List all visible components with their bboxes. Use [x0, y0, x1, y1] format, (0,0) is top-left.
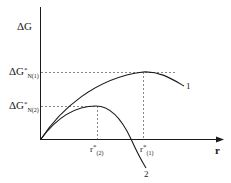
y-mark-dg1-base: ΔG [9, 65, 24, 77]
curve-2 [41, 106, 146, 168]
curve-2-label: 2 [144, 170, 149, 179]
curve-1-label: 1 [186, 82, 191, 91]
x-mark-r2-sub: (2) [97, 150, 104, 156]
x-axis-label: r [215, 145, 220, 156]
y-mark-dg1-sup: * [24, 66, 28, 74]
y-mark-dg2-sub: N(2) [28, 107, 39, 113]
x-axis-arrow-icon [216, 137, 224, 143]
y-axis-label: ΔG [17, 21, 32, 32]
y-mark-dg1-sub: N(1) [28, 73, 39, 79]
x-mark-r1-sup: * [143, 143, 147, 151]
curve-1 [41, 72, 184, 139]
y-mark-dg2: ΔG*N(2) [9, 100, 39, 111]
x-mark-r2: r*(2) [90, 145, 104, 154]
diagram-canvas [0, 0, 231, 183]
x-mark-r1: r*(1) [140, 145, 154, 154]
y-mark-dg1: ΔG*N(1) [9, 66, 39, 77]
x-mark-r2-sup: * [93, 143, 97, 151]
y-mark-dg2-base: ΔG [9, 99, 24, 111]
y-mark-dg2-sup: * [24, 100, 28, 108]
x-mark-r1-sub: (1) [147, 150, 154, 156]
